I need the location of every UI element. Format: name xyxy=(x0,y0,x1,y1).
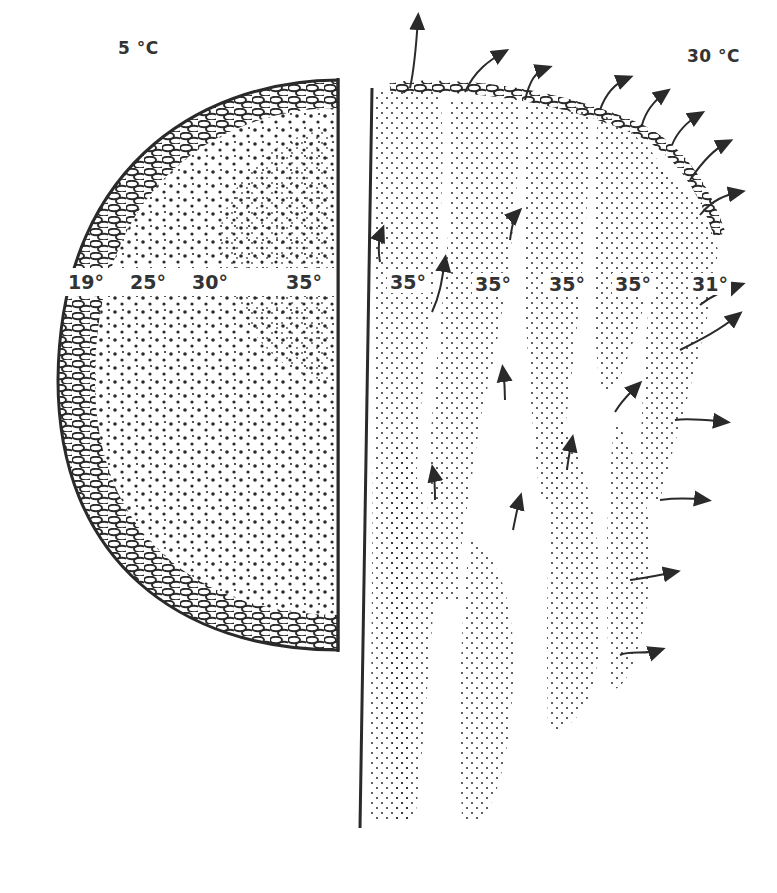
zone-temp-left-2: 25° xyxy=(127,271,169,293)
zone-temp-right-3: 35° xyxy=(546,273,588,295)
zone-temp-right-4: 35° xyxy=(612,273,654,295)
zone-temp-left-3: 30° xyxy=(189,271,231,293)
zone-temp-right-5: 31° xyxy=(689,273,731,295)
zone-temp-left-1: 19° xyxy=(65,271,107,293)
zone-temp-right-1: 35° xyxy=(387,271,429,293)
zone-temp-left-4: 35° xyxy=(283,271,325,293)
left-panel-title: 5 °C xyxy=(118,38,159,58)
right-panel-title: 30 °C xyxy=(687,46,740,66)
warm-cluster xyxy=(360,18,740,828)
cold-cluster xyxy=(58,78,338,652)
honeybee-cluster-diagram xyxy=(0,0,777,893)
zone-temp-right-2: 35° xyxy=(472,273,514,295)
